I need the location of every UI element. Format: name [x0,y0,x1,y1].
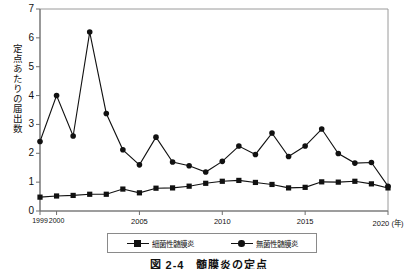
x-axis-tick-label: 2010 [192,217,252,226]
y-axis-tick-label: 6 [20,32,34,43]
legend-item-bacterial[interactable]: 細菌性髄膜炎 [127,238,194,249]
x-axis-tick-label: 2000 [27,217,87,224]
legend-item-aseptic[interactable]: 無菌性髄膜炎 [231,238,298,249]
square-marker-icon [127,239,149,248]
chart-legend: 細菌性髄膜炎 無菌性髄膜炎 [107,233,317,253]
chart-plot-area [0,0,418,269]
legend-label-aseptic: 無菌性髄膜炎 [256,238,298,249]
x-axis-tick-label: 2005 [109,217,169,226]
x-axis-tick-label: 2015 [275,217,335,226]
y-axis-tick-label: 3 [20,118,34,129]
y-axis-tick-label: 0 [20,205,34,216]
y-axis-tick-label: 7 [20,3,34,14]
y-axis-tick-label: 1 [20,176,34,187]
y-axis-tick-label: 2 [20,147,34,158]
y-axis-tick-label: 5 [20,61,34,72]
circle-marker-icon [231,239,253,248]
x-axis-tick-label: 2020 (年) [358,217,418,228]
figure-caption: 図 2-4 髄膜炎の定点 [0,256,418,269]
legend-label-bacterial: 細菌性髄膜炎 [152,238,194,249]
chart-figure: 定点あたりの届出数 細菌性髄膜炎 無菌性髄膜炎 図 2-4 髄膜炎の定点 012… [0,0,418,269]
y-axis-tick-label: 4 [20,90,34,101]
